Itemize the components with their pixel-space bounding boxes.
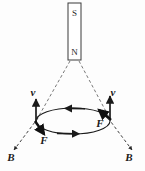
magnetic-field-vector-right [108,118,132,150]
diagram-canvas: S N v v [0,0,145,171]
bar-magnet: S N [68,3,81,60]
velocity-label-left: v [31,86,36,98]
force-vector-left [35,121,44,134]
magnet-south-pole-label: S [72,8,77,18]
right-vector-group [99,96,132,150]
magnetic-field-label-right: B [124,151,132,163]
force-label-right: F [95,117,104,129]
field-line-left [36,61,70,121]
vector-labels-group: v v F F B B [6,86,132,163]
physics-diagram-figure: S N v v [0,0,145,171]
magnetic-field-label-left: B [6,151,14,163]
magnet-north-pole-label: N [71,47,78,57]
magnetic-field-vector-left [14,118,38,150]
velocity-label-right: v [111,86,116,98]
force-label-left: F [39,134,48,146]
